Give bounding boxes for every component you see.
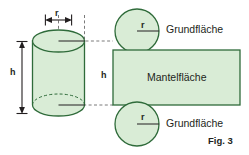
label-height-lateral-surface: h (101, 71, 107, 80)
r-arrowhead-left (45, 17, 52, 23)
label-radius-top-circle: r (141, 21, 145, 30)
top-base-circle-group (115, 9, 159, 53)
label-radius-cylinder: r (55, 9, 59, 18)
bottom-base-circle-group (115, 102, 159, 146)
cylinder-solid (33, 30, 85, 116)
figure-3-cylinder-net-diagram: r h r r h Grundfläche Mantelfläche Grund… (0, 0, 249, 155)
label-height-cylinder: h (10, 68, 16, 77)
figure-caption: Fig. 3 (208, 136, 233, 146)
label-lateral-face: Mantelfläche (147, 72, 207, 83)
label-base-face-top: Grundfläche (166, 24, 223, 35)
height-dimension-cylinder (17, 41, 28, 114)
label-radius-bottom-circle: r (141, 113, 145, 122)
r-arrowhead-right (65, 17, 72, 23)
label-base-face-bottom: Grundfläche (166, 118, 223, 129)
